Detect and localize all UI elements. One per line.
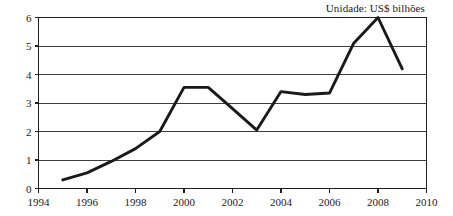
x-tick-label: 2006 [319, 196, 342, 208]
y-tick-label: 4 [26, 69, 32, 81]
x-tick-label: 1996 [76, 196, 99, 208]
x-tick-label: 2004 [270, 196, 293, 208]
line-chart: 0123456 19941996199820002002200420062008… [0, 0, 453, 216]
gridlines-group [39, 46, 427, 160]
x-tick-label: 2008 [367, 196, 390, 208]
chart-container: Unidade: US$ bilhões 0123456 19941996199… [0, 0, 453, 216]
x-tick-label: 2002 [222, 196, 244, 208]
x-tick-label: 2000 [173, 196, 196, 208]
x-axis-labels-group: 199419961998200020022004200620082010 [28, 196, 439, 208]
y-tick-label: 1 [26, 154, 32, 166]
y-tick-label: 3 [26, 97, 32, 109]
series-group [63, 18, 403, 180]
y-tick-label: 0 [26, 183, 32, 195]
y-axis-labels-group: 0123456 [26, 12, 32, 195]
x-tick-label: 1998 [125, 196, 148, 208]
data-series-line [63, 18, 403, 180]
x-tick-label: 1994 [28, 196, 51, 208]
y-tick-label: 5 [26, 40, 32, 52]
x-tick-label: 2010 [416, 196, 439, 208]
y-tick-label: 6 [26, 12, 32, 24]
y-tick-label: 2 [26, 126, 32, 138]
